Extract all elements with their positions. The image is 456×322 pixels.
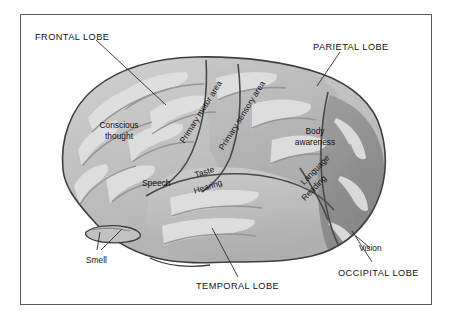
function-label-vision: Vision — [359, 243, 382, 254]
function-label-body-awareness: Bodyawareness — [287, 126, 343, 147]
function-label-speech: Speech — [142, 178, 170, 189]
lobe-label-frontal: FRONTAL LOBE — [35, 32, 109, 42]
diagram-canvas: FRONTAL LOBE PARIETAL LOBE TEMPORAL LOBE… — [0, 0, 456, 322]
olfactory-bulb — [86, 226, 141, 243]
lobe-label-occipital: OCCIPITAL LOBE — [338, 268, 419, 278]
lobe-label-temporal: TEMPORAL LOBE — [196, 281, 279, 291]
function-label-conscious-thought: Consciousthought — [90, 120, 148, 141]
function-label-smell: Smell — [86, 255, 107, 266]
lobe-label-parietal: PARIETAL LOBE — [313, 42, 389, 52]
